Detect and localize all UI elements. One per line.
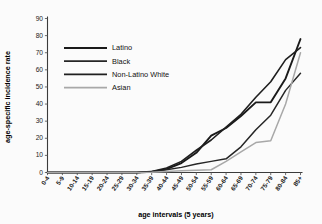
chart-figure: 0102030405060708090 0-45-910-1415-1920-2… [0, 0, 322, 224]
legend-label-black: Black [112, 57, 130, 66]
legend-label-non-latino-white: Non-Latino White [112, 70, 169, 79]
x-axis-title: age intervals (5 years) [138, 210, 214, 219]
y-tick-label: 20 [36, 134, 44, 141]
legend-label-asian: Asian [112, 83, 131, 92]
y-tick-label: 10 [36, 151, 44, 158]
legend-label-latino: Latino [112, 43, 132, 52]
y-tick-label: 90 [36, 15, 44, 22]
incidence-rate-line-chart: 0102030405060708090 0-45-910-1415-1920-2… [0, 0, 322, 224]
y-tick-label: 60 [36, 66, 44, 73]
y-tick-label: 30 [36, 117, 44, 124]
y-tick-label: 70 [36, 49, 44, 56]
y-tick-label: 40 [36, 100, 44, 107]
y-axis-title: age-specific incidence rate [3, 51, 12, 143]
y-tick-label: 80 [36, 32, 44, 39]
y-tick-label: 50 [36, 83, 44, 90]
y-tick-label: 0 [39, 169, 43, 176]
